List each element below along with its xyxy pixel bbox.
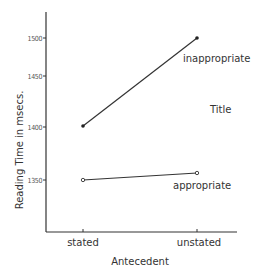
data-point-appropriate-unstated	[195, 171, 198, 174]
y-tick-label-1450: 1450	[28, 73, 43, 81]
chart-title: Title	[209, 104, 231, 115]
x-tick-label-stated: stated	[67, 237, 99, 248]
x-axis-title: Antecedent	[111, 256, 169, 267]
data-point-appropriate-stated	[81, 178, 84, 181]
y-tick-label-1350: 1350	[28, 177, 43, 185]
y-ticks: 1500 1450 1400 1350	[28, 35, 46, 185]
line-chart: 1500 1450 1400 1350 stated unstated Ante…	[0, 0, 256, 279]
x-tick-label-unstated: unstated	[177, 237, 221, 248]
series-label-appropriate: appropriate	[173, 180, 231, 191]
series-label-inappropriate: inappropriate	[183, 53, 250, 64]
data-point-inappropriate-stated	[81, 124, 85, 128]
y-tick-label-1400: 1400	[28, 124, 43, 132]
y-tick-label-1500: 1500	[28, 35, 43, 43]
y-axis-title: Reading Time in msecs.	[14, 91, 25, 210]
data-point-inappropriate-unstated	[195, 36, 199, 40]
series-appropriate: appropriate	[81, 171, 231, 191]
